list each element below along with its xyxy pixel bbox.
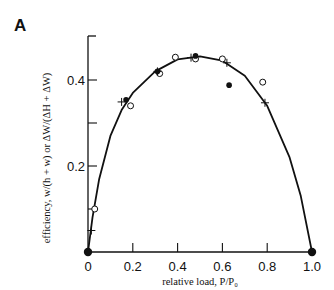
filled-circle-marker bbox=[226, 82, 232, 88]
open-circle-marker bbox=[172, 54, 178, 60]
filled-circle-marker bbox=[84, 248, 92, 256]
efficiency-chart: 00.20.40.60.81.00.20.4relative load, P/P… bbox=[0, 0, 334, 290]
open-circle-marker bbox=[219, 56, 225, 62]
y-axis-title: efficiency, w/(h + w) or ΔW/(ΔH + ΔW) bbox=[41, 72, 53, 243]
x-tick-label: 0.6 bbox=[213, 259, 231, 274]
x-tick-label: 0.8 bbox=[258, 259, 276, 274]
x-tick-label: 0 bbox=[84, 259, 91, 274]
x-tick-label: 0.4 bbox=[169, 259, 187, 274]
x-tick-label: 1.0 bbox=[303, 259, 321, 274]
y-tick-label: 0.2 bbox=[67, 159, 85, 174]
x-tick-label: 0.2 bbox=[124, 259, 142, 274]
open-circle-marker bbox=[128, 103, 134, 109]
open-circle-marker bbox=[92, 206, 98, 212]
open-circle-marker bbox=[260, 79, 266, 85]
filled-circle-marker bbox=[308, 248, 316, 256]
x-axis-title: relative load, P/P₀ bbox=[162, 276, 238, 287]
fitted-curve bbox=[88, 56, 312, 252]
y-tick-label: 0.4 bbox=[67, 73, 85, 88]
